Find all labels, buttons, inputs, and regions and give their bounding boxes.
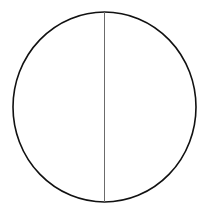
diagram-svg — [0, 0, 203, 215]
diagram-canvas — [0, 0, 203, 215]
